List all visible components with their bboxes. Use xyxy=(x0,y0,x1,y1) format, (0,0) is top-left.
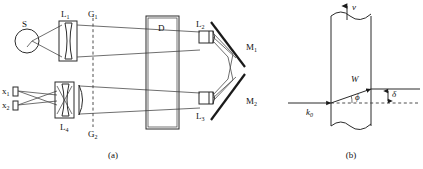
lens-l1-surface-right xyxy=(70,23,72,59)
slab-top-break-curve xyxy=(331,12,371,20)
lens-l4-surface-left xyxy=(62,84,64,116)
lens-l2-assembly xyxy=(199,31,215,43)
panel-a-group: S L1 G1 G2 D L2 L3 L4 M1 M2 x1 x2 (a) xyxy=(2,9,257,160)
source-assembly xyxy=(15,25,62,57)
optical-setup-figure: S L1 G1 G2 D L2 L3 L4 M1 M2 x1 x2 (a) v xyxy=(0,0,423,169)
lens-l3-label: L3 xyxy=(196,111,205,122)
slab-bottom-break-curve xyxy=(331,122,371,130)
velocity-label: v xyxy=(352,2,356,12)
slit-assembly xyxy=(13,87,57,110)
lower-ray-top xyxy=(80,86,200,93)
source-ray-tail xyxy=(27,41,32,47)
beam-width-label: W xyxy=(351,74,360,84)
lens-l3-assembly xyxy=(199,92,215,104)
lens-l4-label: L4 xyxy=(60,122,69,133)
lens-l4-assembly xyxy=(55,82,83,118)
lower-beam-rays xyxy=(80,86,200,114)
lens-l2-barrel xyxy=(199,31,213,43)
panel-a-caption: (a) xyxy=(108,150,118,160)
slit-x1-label: x1 xyxy=(2,86,10,97)
cross-ray-8 xyxy=(213,77,236,98)
upper-ray-top xyxy=(77,25,200,32)
lens-l1-surface-left xyxy=(65,23,67,59)
mirror-m1-label: M1 xyxy=(246,42,257,53)
lens-l3-barrel xyxy=(199,92,213,104)
detector-label: D xyxy=(158,23,165,33)
panel-b-caption: (b) xyxy=(346,150,357,160)
mirror-m2-surface xyxy=(211,74,245,120)
angle-phi-label: ϕ xyxy=(355,92,360,102)
slit-x1-aperture xyxy=(13,87,18,96)
mirror-m2-label: M2 xyxy=(246,96,257,107)
slit-x2-label: x2 xyxy=(2,100,10,111)
grating-g2-label: G2 xyxy=(88,129,98,140)
lens-l4-surface-right xyxy=(67,84,69,116)
lens-l4-aux-surface-right xyxy=(79,85,83,115)
wave-vector-label: k0 xyxy=(306,107,313,118)
figure-canvas: S L1 G1 G2 D L2 L3 L4 M1 M2 x1 x2 (a) v xyxy=(0,0,423,169)
panel-b-group: v k0 W ϕ δ (b) xyxy=(288,2,420,160)
angle-phi-arc xyxy=(351,96,352,103)
upper-ray-bottom xyxy=(77,50,200,57)
lens-l1-housing xyxy=(59,21,77,61)
lens-l2-label: L2 xyxy=(196,19,205,30)
upper-beam-rays xyxy=(77,25,200,57)
dragged-ray-inside-slab xyxy=(331,89,371,103)
cross-ray-3 xyxy=(213,80,233,101)
slit-x2-aperture xyxy=(13,101,18,110)
grating-g1-label: G1 xyxy=(88,9,98,20)
lens-l1-assembly xyxy=(59,21,77,61)
lower-ray-bottom xyxy=(80,108,200,114)
source-circle xyxy=(15,29,39,53)
source-label: S xyxy=(22,19,27,29)
lens-l1-label: L1 xyxy=(61,9,70,20)
displacement-delta-label: δ xyxy=(392,89,397,99)
